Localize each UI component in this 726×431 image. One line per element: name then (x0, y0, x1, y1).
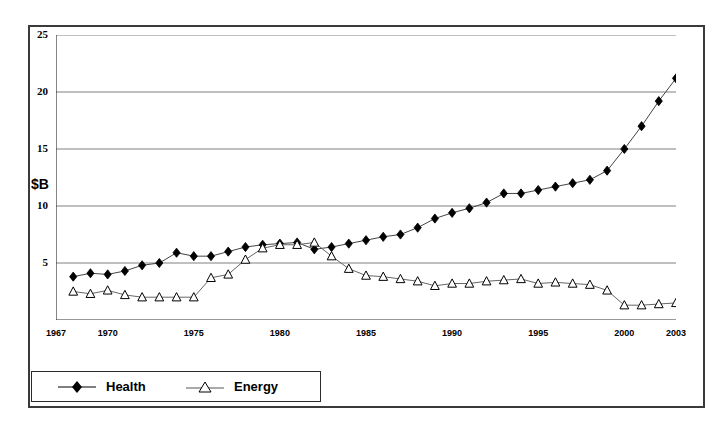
data-point-energy (672, 298, 676, 306)
data-point-energy (103, 286, 112, 294)
filled-diamond-icon (56, 379, 98, 395)
data-point-health (397, 230, 404, 239)
data-point-health (380, 232, 387, 241)
data-point-health (569, 179, 576, 188)
data-point-health (345, 239, 352, 248)
legend-entry-energy: Energy (184, 372, 278, 401)
data-point-health (500, 189, 507, 198)
open-triangle-icon (184, 379, 226, 395)
data-point-health (328, 242, 335, 251)
data-point-health (431, 214, 438, 223)
y-tick-label-25: 25 (26, 28, 48, 40)
data-point-energy (344, 264, 353, 272)
data-point-health (87, 269, 94, 278)
data-point-energy (69, 287, 78, 295)
data-point-health (190, 252, 197, 261)
data-point-health (535, 185, 542, 194)
data-point-health (173, 248, 180, 257)
data-point-health (70, 272, 77, 281)
x-tick-label-1967: 1967 (46, 328, 66, 338)
line-chart-svg (56, 35, 676, 320)
legend-entry-health: Health (56, 372, 146, 401)
x-tick-label-1995: 1995 (528, 328, 548, 338)
data-point-energy (517, 274, 526, 282)
data-point-energy (224, 270, 233, 278)
plot-area (56, 35, 676, 320)
y-tick-label-15: 15 (26, 142, 48, 154)
series-line-health (73, 78, 676, 276)
data-point-health (121, 266, 128, 275)
x-tick-label-1980: 1980 (270, 328, 290, 338)
x-tick-label-1975: 1975 (184, 328, 204, 338)
x-tick-label-1990: 1990 (442, 328, 462, 338)
x-tick-label-2003: 2003 (666, 328, 686, 338)
chart-figure: $B 510152025 196719701975198019851990199… (0, 0, 726, 431)
data-point-energy (551, 278, 560, 286)
data-point-health (104, 270, 111, 279)
x-tick-label-1970: 1970 (98, 328, 118, 338)
data-point-health (414, 223, 421, 232)
legend-label-energy: Energy (234, 379, 278, 394)
x-tick-label-2000: 2000 (614, 328, 634, 338)
data-point-energy (310, 238, 319, 246)
data-point-health (517, 189, 524, 198)
data-point-health (449, 208, 456, 217)
legend-label-health: Health (106, 379, 146, 394)
y-tick-label-10: 10 (26, 199, 48, 211)
x-tick-label-1985: 1985 (356, 328, 376, 338)
series-line-energy (73, 242, 676, 305)
data-point-health (242, 242, 249, 251)
data-point-health (225, 247, 232, 256)
y-axis-title: $B (31, 176, 49, 192)
y-tick-label-20: 20 (26, 85, 48, 97)
data-point-energy (362, 271, 371, 279)
data-point-health (552, 182, 559, 191)
data-point-health (362, 236, 369, 245)
data-point-energy (241, 255, 250, 263)
data-point-health (207, 252, 214, 261)
data-point-energy (603, 286, 612, 294)
y-tick-label-5: 5 (26, 256, 48, 268)
chart-legend: Health Energy (31, 371, 321, 402)
data-point-health (466, 204, 473, 213)
data-point-energy (327, 252, 336, 260)
data-point-health (586, 175, 593, 184)
data-point-health (156, 258, 163, 267)
data-point-health (139, 261, 146, 270)
